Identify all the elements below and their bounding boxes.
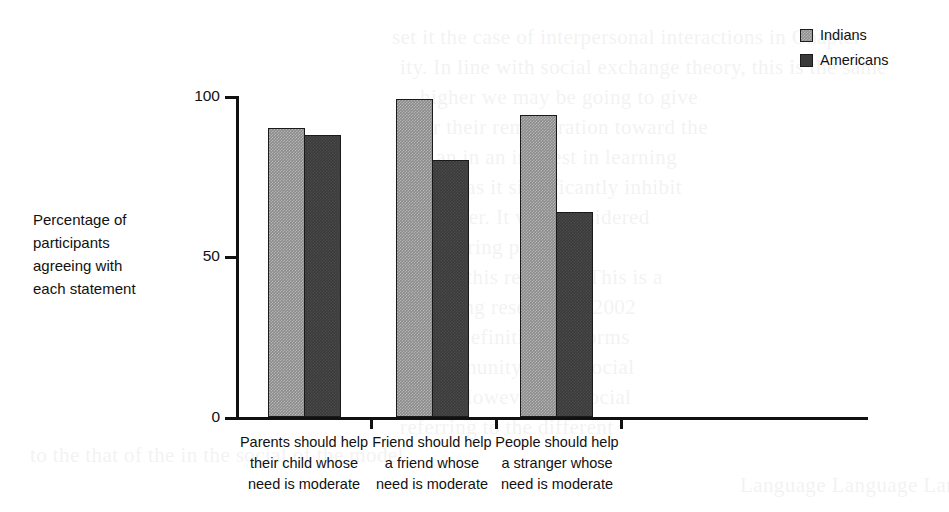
bar-americans-stranger (556, 212, 593, 417)
x-category-label-line: a stranger whose (457, 453, 657, 474)
bar-indians-stranger (520, 115, 557, 417)
x-tick-2 (495, 418, 498, 429)
y-tick-label-50: 50 (180, 247, 220, 265)
bar-chart: Indians Americans Percentage of particip… (0, 0, 949, 512)
y-tick-0 (225, 417, 237, 420)
plot-area: 100 50 0 Parents should help their child (0, 0, 949, 512)
y-tick-50 (225, 256, 237, 259)
x-axis-line (236, 417, 868, 420)
y-tick-label-100: 100 (180, 87, 220, 105)
bar-indians-friend (396, 99, 433, 417)
x-category-label-stranger: People should help a stranger whose need… (457, 432, 657, 495)
y-tick-100 (225, 96, 237, 99)
bar-americans-friend (432, 160, 469, 417)
x-category-label-line: People should help (457, 432, 657, 453)
y-tick-label-0: 0 (180, 408, 220, 426)
bar-americans-parents (304, 135, 341, 417)
x-tick-3 (620, 418, 623, 429)
bar-indians-parents (268, 128, 305, 417)
x-category-label-line: need is moderate (457, 474, 657, 495)
x-tick-1 (370, 418, 373, 429)
